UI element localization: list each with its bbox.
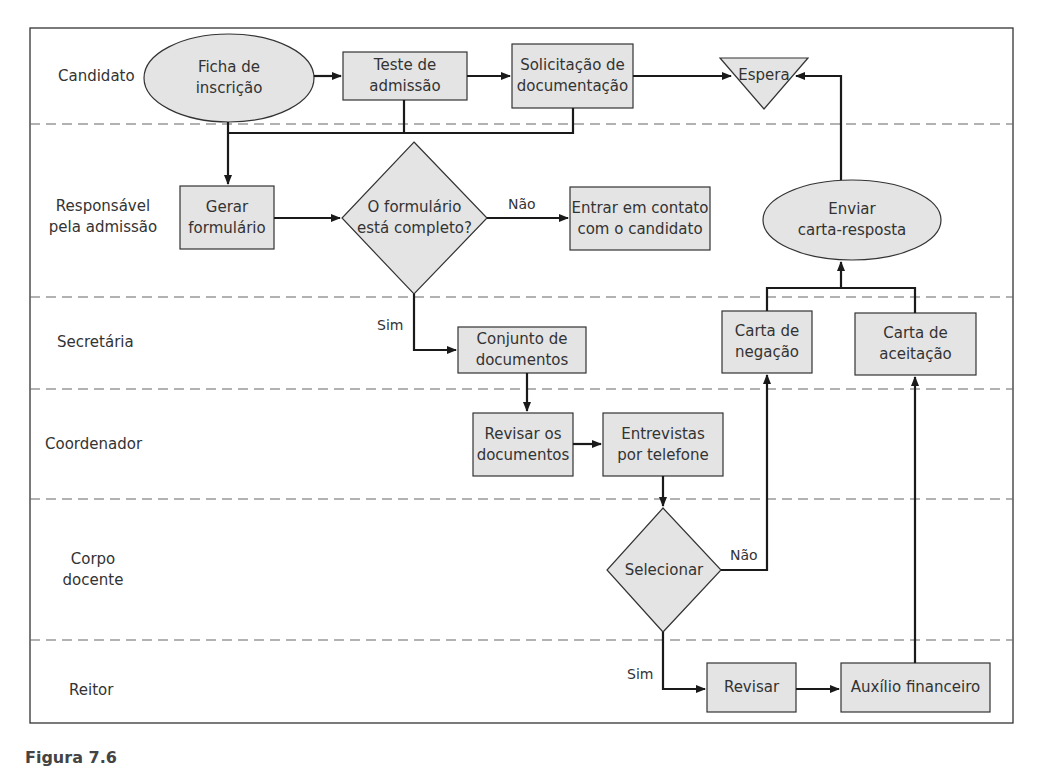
lane-label-line: Corpo <box>58 549 128 570</box>
revisar-text: Revisar <box>707 663 796 712</box>
node-line: por telefone <box>617 445 708 466</box>
conjunto-documentos-text: Conjunto de documentos <box>458 327 586 373</box>
lane-label-candidato: Candidato <box>58 66 135 87</box>
node-line: está completo? <box>357 218 472 239</box>
lane-label-coordenador: Coordenador <box>45 434 142 455</box>
node-line: Entrevistas <box>621 424 705 445</box>
solicitacao-documentacao-text: Solicitação de documentação <box>512 44 633 108</box>
teste-admissao-text: Teste de admissão <box>343 52 467 100</box>
edge-label-sim-completo: Sim <box>377 317 403 333</box>
node-line: com o candidato <box>577 219 702 240</box>
node-line: Carta de <box>883 323 947 344</box>
node-line: inscrição <box>196 78 263 99</box>
edges <box>228 76 915 689</box>
carta-aceitacao-text: Carta de aceitação <box>855 313 976 375</box>
lane-label-corpo-docente: Corpo docente <box>58 549 128 591</box>
node-line: admissão <box>369 76 441 97</box>
gerar-formulario-text: Gerar formulário <box>180 186 274 249</box>
entrevistas-telefone-text: Entrevistas por telefone <box>603 413 723 476</box>
node-line: O formulário <box>368 197 462 218</box>
node-line: aceitação <box>879 344 952 365</box>
selecionar-text: Selecionar <box>607 558 721 582</box>
lane-label-line: docente <box>58 570 128 591</box>
node-line: Revisar os <box>485 424 562 445</box>
node-line: Solicitação de <box>520 55 625 76</box>
figure-caption: Figura 7.6 <box>25 748 117 767</box>
edge-label-nao-selecionar: Não <box>730 547 758 563</box>
lane-label-line: Responsável <box>48 196 158 217</box>
ficha-inscricao-text: Ficha de inscrição <box>144 34 314 122</box>
entrar-contato-text: Entrar em contato com o candidato <box>570 187 710 250</box>
node-line: Enviar <box>828 199 875 220</box>
revisar-documentos-text: Revisar os documentos <box>473 413 573 476</box>
edge-label-nao-completo: Não <box>508 196 536 212</box>
lane-label-line: pela admissão <box>48 217 158 238</box>
auxilio-financeiro-text: Auxílio financeiro <box>841 663 990 712</box>
node-line: documentos <box>477 445 570 466</box>
lane-label-responsavel: Responsável pela admissão <box>48 196 158 238</box>
node-line: Teste de <box>374 55 436 76</box>
espera-text: Espera <box>730 64 798 86</box>
carta-negacao-text: Carta de negação <box>722 311 812 373</box>
edge-label-sim-selecionar: Sim <box>627 666 653 682</box>
node-line: Gerar <box>206 197 248 218</box>
node-line: Ficha de <box>198 57 260 78</box>
node-line: Carta de <box>735 321 799 342</box>
enviar-carta-resposta-text: Enviar carta-resposta <box>763 180 941 260</box>
node-line: documentação <box>517 76 629 97</box>
lane-label-secretaria: Secretária <box>57 332 134 353</box>
node-line: negação <box>735 342 799 363</box>
node-line: Conjunto de <box>477 329 568 350</box>
lane-label-reitor: Reitor <box>69 680 113 701</box>
node-line: documentos <box>476 350 569 371</box>
formulario-completo-text: O formulário está completo? <box>342 186 487 249</box>
node-line: carta-resposta <box>798 220 907 241</box>
node-line: formulário <box>188 218 265 239</box>
node-line: Entrar em contato <box>572 198 709 219</box>
